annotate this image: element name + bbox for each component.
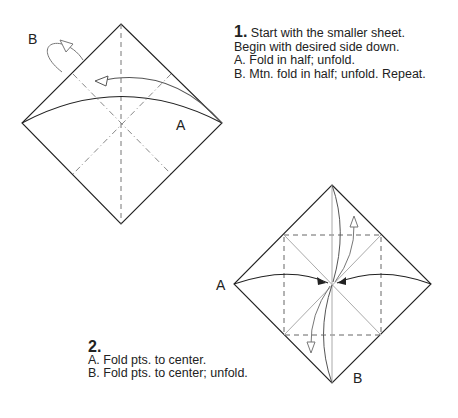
step2-line: A. Fold pts. to center. bbox=[88, 354, 248, 368]
arrow-head-icon bbox=[95, 76, 108, 86]
step1-label-a: A bbox=[176, 117, 185, 133]
step2-number: 2. bbox=[88, 340, 248, 354]
arrow-head-icon bbox=[350, 216, 358, 227]
arrow-head-icon bbox=[60, 40, 73, 52]
step2-line: B. Fold pts. to center; unfold. bbox=[88, 367, 248, 381]
step1-fold-curve bbox=[22, 97, 222, 124]
step1-instructions: 1. Start with the smaller sheet. Begin w… bbox=[234, 25, 426, 81]
arrow-head-icon bbox=[307, 342, 315, 353]
step1-title: Start with the smaller sheet. bbox=[251, 26, 405, 40]
step2-unfold-arrow-bottom bbox=[311, 286, 330, 345]
step2-arrow-bottom bbox=[324, 285, 333, 383]
step2-arrow-top bbox=[332, 185, 340, 282]
step2-diagram bbox=[234, 185, 431, 383]
step2-unfold-arrow-top bbox=[335, 225, 354, 282]
step2-arrow-right bbox=[337, 274, 431, 284]
step2-arrow-left bbox=[234, 274, 328, 284]
step2-instructions: 2. A. Fold pts. to center. B. Fold pts. … bbox=[88, 340, 248, 381]
step1-label-b: B bbox=[28, 31, 37, 47]
step1-diagram bbox=[22, 24, 222, 224]
step1-line: B. Mtn. fold in half; unfold. Repeat. bbox=[234, 68, 426, 82]
step2-label-b: B bbox=[353, 370, 362, 386]
step1-line: A. Fold in half; unfold. bbox=[234, 54, 426, 68]
step2-label-a: A bbox=[216, 277, 225, 293]
step1-line: Begin with desired side down. bbox=[234, 41, 426, 55]
step1-number: 1. bbox=[234, 23, 247, 40]
